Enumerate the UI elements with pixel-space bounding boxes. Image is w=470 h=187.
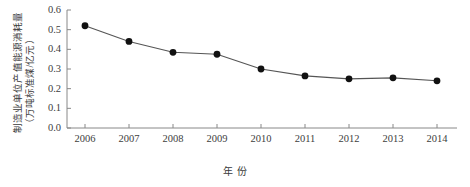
data-point-marker[interactable]	[126, 38, 133, 45]
data-point-marker[interactable]	[170, 49, 177, 56]
data-point-marker[interactable]	[390, 74, 397, 81]
data-point-marker[interactable]	[82, 22, 89, 29]
data-line	[85, 26, 437, 81]
chart-figure: 制造业单位产值能源消耗量 （万吨标准煤/亿元） 0.00.10.20.30.40…	[0, 0, 470, 187]
data-point-marker[interactable]	[434, 77, 441, 84]
data-point-marker[interactable]	[258, 66, 265, 73]
data-point-marker[interactable]	[346, 75, 353, 82]
plot-area	[0, 0, 470, 187]
data-point-marker[interactable]	[302, 72, 309, 79]
data-point-marker[interactable]	[214, 51, 221, 58]
x-axis-title: 年 份	[0, 163, 470, 178]
